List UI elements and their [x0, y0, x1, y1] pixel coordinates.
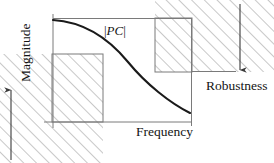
robustness-label: Robustness — [206, 79, 268, 93]
curve-label: |PC| — [104, 24, 126, 37]
upper-right-hatched-region — [155, 0, 274, 72]
curve-label-bar-close: | — [123, 23, 126, 38]
y-axis-label: Magnitude — [19, 18, 33, 88]
curve-label-text: PC — [107, 23, 124, 38]
x-axis-label: Frequency — [136, 125, 193, 139]
loop-shaping-figure: Magnitude |PC| Frequency Robustness — [0, 0, 274, 163]
